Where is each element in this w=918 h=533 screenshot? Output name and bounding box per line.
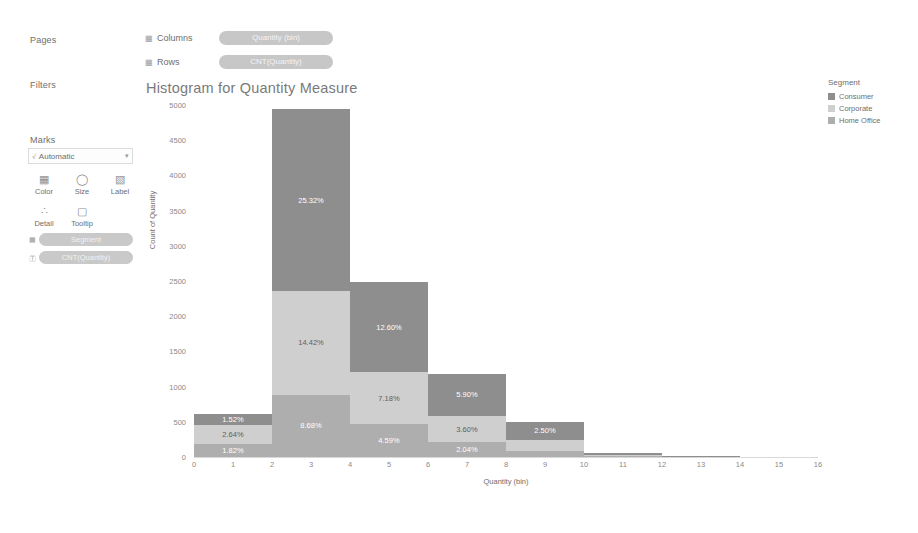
- bar-value-label: 4.59%: [378, 436, 399, 445]
- color-legend-icon: ▦: [29, 236, 39, 244]
- detail-button[interactable]: ∴ Detail: [32, 205, 56, 228]
- legend-items: ConsumerCorporateHome Office: [828, 92, 912, 125]
- y-axis-tick-label: 1000: [169, 382, 186, 391]
- legend-item[interactable]: Home Office: [828, 116, 912, 125]
- y-axis-tick-label: 3500: [169, 206, 186, 215]
- x-axis-tick-label: 2: [270, 460, 274, 469]
- histogram-bar[interactable]: 8.68%14.42%25.32%: [272, 109, 350, 457]
- columns-shelf[interactable]: ▦ Columns Quantity (bin): [145, 30, 565, 46]
- y-axis-ticks: 0500100015002000250030003500400045005000: [146, 105, 190, 457]
- rows-shelf[interactable]: ▦ Rows CNT(Quantity): [145, 54, 565, 70]
- tooltip-icon: ▢: [70, 205, 94, 218]
- y-axis-tick-label: 500: [173, 417, 186, 426]
- bar-segment[interactable]: 25.32%: [272, 109, 350, 291]
- x-axis-title: Quantity (bin): [194, 477, 818, 486]
- label-button[interactable]: ▧ Label: [108, 173, 132, 196]
- filters-shelf-label: Filters: [30, 80, 56, 90]
- bar-value-label: 12.60%: [376, 323, 401, 332]
- pages-shelf-label: Pages: [30, 35, 57, 45]
- bar-value-label: 8.68%: [300, 421, 321, 430]
- marks-pill-segment[interactable]: ▦ Segment: [28, 233, 133, 246]
- x-axis-tick-label: 3: [309, 460, 313, 469]
- detail-icon: ∴: [32, 205, 56, 218]
- bar-segment[interactable]: 1.52%: [194, 414, 272, 425]
- rows-shelf-label: Rows: [157, 57, 219, 67]
- bar-value-label: 7.18%: [378, 394, 399, 403]
- detail-button-label: Detail: [32, 219, 56, 228]
- bar-segment[interactable]: [506, 440, 584, 451]
- bar-segment[interactable]: 14.42%: [272, 291, 350, 395]
- bar-segment[interactable]: 4.59%: [350, 424, 428, 457]
- tooltip-button[interactable]: ▢ Tooltip: [70, 205, 94, 228]
- y-axis-tick-label: 0: [182, 453, 186, 462]
- columns-shelf-label: Columns: [157, 33, 219, 43]
- histogram-bar[interactable]: 2.04%3.60%5.90%: [428, 374, 506, 457]
- bar-segment[interactable]: 5.90%: [428, 374, 506, 416]
- x-axis-tick-label: 10: [580, 460, 588, 469]
- rows-pill-cnt-quantity[interactable]: CNT(Quantity): [219, 55, 333, 69]
- mark-type-dropdown[interactable]: √ Automatic ▾: [28, 148, 133, 164]
- size-icon: ◯: [70, 173, 94, 186]
- tooltip-button-label: Tooltip: [70, 219, 94, 228]
- text-label-icon: Ⓣ: [29, 253, 39, 263]
- bar-value-label: 1.52%: [222, 415, 243, 424]
- page-title: Histogram for Quantity Measure: [146, 80, 358, 96]
- color-button-label: Color: [32, 187, 56, 196]
- legend: Segment ConsumerCorporateHome Office: [828, 78, 912, 128]
- x-axis-tick-label: 0: [192, 460, 196, 469]
- x-axis-tick-label: 16: [814, 460, 822, 469]
- color-icon: ▦: [32, 173, 56, 186]
- bar-segment[interactable]: 8.68%: [272, 395, 350, 457]
- histogram-chart: Count of Quantity 0500100015002000250030…: [146, 105, 818, 485]
- legend-swatch-icon: [828, 117, 835, 124]
- legend-item-label: Corporate: [839, 104, 872, 113]
- bars-layer: 1.82%2.64%1.52%8.68%14.42%25.32%4.59%7.1…: [194, 105, 818, 457]
- chevron-down-icon: ▾: [125, 152, 129, 160]
- legend-swatch-icon: [828, 105, 835, 112]
- marks-pill-cnt-quantity[interactable]: Ⓣ CNT(Quantity): [28, 251, 133, 264]
- y-axis-tick-label: 5000: [169, 101, 186, 110]
- bar-segment[interactable]: [584, 453, 662, 455]
- histogram-bar[interactable]: 1.82%2.64%1.52%: [194, 414, 272, 457]
- bar-segment[interactable]: 2.50%: [506, 422, 584, 440]
- bar-segment[interactable]: 12.60%: [350, 282, 428, 373]
- marks-card: √ Automatic ▾ ▦ Color ◯ Size ▧ Label ∴ D…: [28, 148, 133, 264]
- histogram-bar[interactable]: 4.59%7.18%12.60%: [350, 282, 428, 457]
- grid-icon: ▦: [145, 58, 157, 67]
- bar-segment[interactable]: 3.60%: [428, 416, 506, 442]
- left-shelf-panel: Pages Filters Marks √ Automatic ▾ ▦ Colo…: [0, 0, 140, 533]
- bar-segment[interactable]: 2.04%: [428, 442, 506, 457]
- columns-pill-quantity-bin[interactable]: Quantity (bin): [219, 31, 333, 45]
- bar-segment[interactable]: 2.64%: [194, 425, 272, 444]
- x-axis-ticks: 012345678910111213141516: [194, 460, 818, 474]
- x-axis-line: [194, 457, 818, 458]
- shelf-area: ▦ Columns Quantity (bin) ▦ Rows CNT(Quan…: [145, 30, 565, 78]
- x-axis-tick-label: 11: [619, 460, 627, 469]
- bar-segment[interactable]: 7.18%: [350, 372, 428, 424]
- bar-value-label: 1.82%: [222, 446, 243, 455]
- grid-icon: ▦: [145, 34, 157, 43]
- label-icon: ▧: [108, 173, 132, 186]
- y-axis-tick-label: 4000: [169, 171, 186, 180]
- legend-item[interactable]: Consumer: [828, 92, 912, 101]
- bar-value-label: 2.04%: [456, 445, 477, 454]
- y-axis-tick-label: 3000: [169, 241, 186, 250]
- bar-value-label: 14.42%: [298, 338, 323, 347]
- x-axis-tick-label: 1: [231, 460, 235, 469]
- x-axis-tick-label: 8: [504, 460, 508, 469]
- x-axis-tick-label: 5: [387, 460, 391, 469]
- label-button-label: Label: [108, 187, 132, 196]
- y-axis-tick-label: 4500: [169, 136, 186, 145]
- histogram-bar[interactable]: 2.50%: [506, 422, 584, 457]
- size-button[interactable]: ◯ Size: [70, 173, 94, 196]
- mark-type-icon: √: [32, 153, 36, 160]
- y-axis-tick-label: 2500: [169, 277, 186, 286]
- bar-segment[interactable]: 1.82%: [194, 444, 272, 457]
- color-button[interactable]: ▦ Color: [32, 173, 56, 196]
- bar-value-label: 2.64%: [222, 430, 243, 439]
- marks-button-row-1: ▦ Color ◯ Size ▧ Label: [28, 173, 133, 196]
- x-axis-tick-label: 9: [543, 460, 547, 469]
- marks-pill-cnt-quantity-label: CNT(Quantity): [39, 251, 133, 264]
- size-button-label: Size: [70, 187, 94, 196]
- legend-item[interactable]: Corporate: [828, 104, 912, 113]
